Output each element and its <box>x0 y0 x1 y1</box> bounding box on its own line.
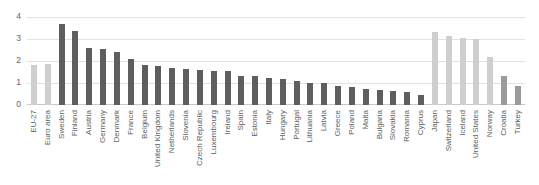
bar-cell <box>124 17 138 105</box>
bar-croatia <box>501 76 507 105</box>
x-label-cell: Denmark <box>110 108 124 182</box>
x-axis-label-united-kingdom: United Kingdom <box>154 110 162 167</box>
x-axis-label-hungary: Hungary <box>279 110 287 140</box>
x-axis-label-sweden: Sweden <box>58 110 66 139</box>
bar-bulgaria <box>377 90 383 105</box>
bar-cell <box>387 17 401 105</box>
bar-cell <box>55 17 69 105</box>
y-axis-tick-4: 4 <box>0 12 21 21</box>
bar-cell <box>221 17 235 105</box>
x-axis-label-germany: Germany <box>99 110 107 143</box>
bar-italy <box>266 78 272 106</box>
bar-france <box>128 59 134 105</box>
x-label-cell: United States <box>470 108 484 182</box>
x-label-cell: Iceland <box>456 108 470 182</box>
bar-spain <box>238 76 244 105</box>
bar-slovenia <box>183 69 189 105</box>
x-axis-label-lithuania: Lithuania <box>306 110 314 142</box>
bar-slovakia <box>390 91 396 105</box>
x-axis-label-slovakia: Slovakia <box>389 110 397 140</box>
bar-series <box>27 17 525 105</box>
bar-cell <box>179 17 193 105</box>
x-label-cell: Hungary <box>276 108 290 182</box>
bar-cell <box>96 17 110 105</box>
bar-cell <box>317 17 331 105</box>
x-axis-label-iceland: Iceland <box>459 110 467 136</box>
x-axis-label-spain: Spain <box>237 110 245 130</box>
bar-united-kingdom <box>155 66 161 105</box>
x-label-cell: France <box>124 108 138 182</box>
x-label-cell: Czech Republic <box>193 108 207 182</box>
bar-luxembourg <box>211 71 217 105</box>
x-axis-label-romania: Romania <box>403 110 411 142</box>
x-label-cell: Japan <box>428 108 442 182</box>
bar-norway <box>487 57 493 105</box>
bar-united-states <box>473 39 479 105</box>
bar-cell <box>414 17 428 105</box>
bar-switzerland <box>446 36 452 105</box>
x-label-cell: Portugal <box>290 108 304 182</box>
x-label-cell: Latvia <box>317 108 331 182</box>
bar-cell <box>456 17 470 105</box>
bar-cell <box>248 17 262 105</box>
x-axis-label-norway: Norway <box>486 110 494 137</box>
x-axis-label-estonia: Estonia <box>251 110 259 137</box>
x-label-cell: Netherlands <box>165 108 179 182</box>
bar-cell <box>82 17 96 105</box>
x-label-cell: Greece <box>331 108 345 182</box>
bar-cell <box>331 17 345 105</box>
x-axis-label-france: France <box>127 110 135 135</box>
bar-austria <box>86 48 92 105</box>
bar-germany <box>100 49 106 105</box>
bar-cell <box>483 17 497 105</box>
bar-cell <box>41 17 55 105</box>
bar-cell <box>276 17 290 105</box>
bar-cell <box>262 17 276 105</box>
bar-cell <box>151 17 165 105</box>
bar-cell <box>428 17 442 105</box>
bar-portugal <box>294 81 300 105</box>
bar-cell <box>359 17 373 105</box>
x-label-cell: Austria <box>82 108 96 182</box>
x-label-cell: Cyprus <box>414 108 428 182</box>
bar-poland <box>349 87 355 105</box>
x-label-cell: Malta <box>359 108 373 182</box>
x-axis-label-netherlands: Netherlands <box>168 110 176 153</box>
bar-chart: 01234 EU-27Euro areaSwedenFinlandAustria… <box>0 0 539 185</box>
x-axis-label-greece: Greece <box>334 110 342 136</box>
bar-lithuania <box>307 83 313 105</box>
x-axis-label-switzerland: Switzerland <box>445 110 453 151</box>
bar-finland <box>72 31 78 105</box>
x-label-cell: Sweden <box>55 108 69 182</box>
x-label-cell: Luxembourg <box>207 108 221 182</box>
x-label-cell: Slovakia <box>387 108 401 182</box>
x-axis-label-turkey: Turkey <box>514 110 522 134</box>
bar-netherlands <box>169 68 175 105</box>
bar-cell <box>304 17 318 105</box>
x-label-cell: United Kingdom <box>151 108 165 182</box>
bar-cell <box>207 17 221 105</box>
x-axis-label-italy: Italy <box>265 110 273 125</box>
x-axis-label-bulgaria: Bulgaria <box>376 110 384 139</box>
y-axis-tick-0: 0 <box>0 100 21 109</box>
x-label-cell: Poland <box>345 108 359 182</box>
x-axis-label-japan: Japan <box>431 110 439 132</box>
x-axis-label-malta: Malta <box>362 110 370 130</box>
bar-cell <box>290 17 304 105</box>
x-axis-label-ireland: Ireland <box>224 110 232 134</box>
x-axis-label-finland: Finland <box>71 110 79 136</box>
bar-cell <box>165 17 179 105</box>
bar-cell <box>27 17 41 105</box>
bar-ireland <box>225 71 231 105</box>
x-label-cell: Germany <box>96 108 110 182</box>
bar-sweden <box>59 24 65 105</box>
bar-cell <box>345 17 359 105</box>
x-label-cell: Croatia <box>497 108 511 182</box>
x-axis-label-slovenia: Slovenia <box>182 110 190 141</box>
bar-cell <box>373 17 387 105</box>
bar-euro-area <box>45 64 51 105</box>
x-axis-label-cyprus: Cyprus <box>417 110 425 135</box>
bar-czech-republic <box>197 70 203 105</box>
x-label-cell: Italy <box>262 108 276 182</box>
bar-cell <box>193 17 207 105</box>
